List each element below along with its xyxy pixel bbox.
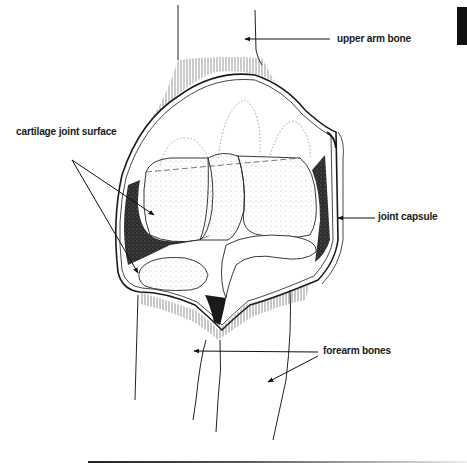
label-cartilage-joint-surface: cartilage joint surface [16, 125, 117, 137]
label-upper-arm-bone: upper arm bone [337, 32, 411, 44]
forearm-arrow-2 [268, 356, 318, 382]
label-joint-capsule: joint capsule [378, 210, 438, 222]
label-forearm-bones: forearm bones [323, 344, 391, 356]
cartilage-surfaces [139, 153, 317, 298]
forearm-arrow-1 [194, 351, 318, 352]
diagram-illustration [0, 0, 467, 463]
page-edge-tab [457, 7, 467, 45]
cartilage-arrow-1 [72, 160, 154, 215]
elbow-joint-diagram: upper arm bone cartilage joint surface j… [0, 0, 467, 463]
